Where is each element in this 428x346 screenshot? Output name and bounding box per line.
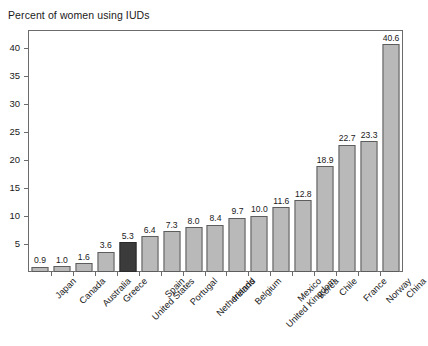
bar-value-label: 8.4 [210, 213, 222, 223]
bar [185, 227, 202, 272]
y-axis-tick-label: 15 [9, 182, 20, 193]
bar [273, 207, 290, 272]
bar [361, 141, 378, 272]
x-axis-category-label: Japan [53, 276, 78, 301]
bar-value-label: 11.6 [273, 196, 289, 206]
y-axis-tick-label: 25 [9, 126, 20, 137]
bar-group: 40.6 [380, 31, 402, 272]
bar [295, 200, 312, 272]
bar-group: 1.6 [73, 31, 95, 272]
bar-group: 1.0 [51, 31, 73, 272]
bar-group: 0.9 [29, 31, 51, 272]
y-axis-tick-label: 20 [9, 154, 20, 165]
bar-value-label: 12.8 [295, 189, 312, 199]
bar-group: 9.7 [226, 31, 248, 272]
bars-layer: 0.91.01.63.65.36.47.38.08.49.710.011.612… [29, 31, 402, 272]
bar [97, 252, 114, 272]
bar-group: 5.3 [117, 31, 139, 272]
bar-value-label: 3.6 [100, 240, 112, 250]
bar-value-label: 18.9 [317, 155, 334, 165]
bar-value-label: 9.7 [231, 206, 243, 216]
y-axis-tick-label: 10 [9, 210, 20, 221]
bar-group: 18.9 [314, 31, 336, 272]
bar [119, 242, 136, 272]
x-axis-labels: JapanCanadaAustraliaGreeceUnited StatesS… [29, 276, 425, 346]
bar [251, 216, 268, 272]
bar-group: 10.0 [248, 31, 270, 272]
y-axis-tick-label: 40 [9, 42, 20, 53]
bar [207, 225, 224, 272]
bar-group: 22.7 [336, 31, 358, 272]
bar-group: 8.0 [183, 31, 205, 272]
bar [141, 236, 158, 272]
y-axis-tick-label: 35 [9, 70, 20, 81]
bar [229, 218, 246, 272]
y-axis: 510152025303540 [0, 30, 28, 273]
bar [317, 166, 334, 272]
bar-value-label: 22.7 [339, 133, 356, 143]
bar-value-label: 7.3 [166, 220, 178, 230]
bar-group: 12.8 [292, 31, 314, 272]
y-axis-tick-label: 5 [15, 238, 20, 249]
bar-value-label: 10.0 [251, 204, 268, 214]
bar-value-label: 6.4 [144, 225, 156, 235]
bar-group: 3.6 [95, 31, 117, 272]
bar-group: 23.3 [358, 31, 380, 272]
bar-group: 7.3 [161, 31, 183, 272]
bar [383, 44, 400, 272]
bar-value-label: 40.6 [383, 33, 400, 43]
bar [163, 231, 180, 272]
bar-value-label: 8.0 [188, 216, 200, 226]
bar-value-label: 1.6 [78, 252, 90, 262]
bar-value-label: 1.0 [56, 255, 68, 265]
bar [75, 263, 92, 272]
x-axis-category-label: Belgium [253, 276, 284, 307]
bar-value-label: 5.3 [122, 231, 134, 241]
bar-group: 8.4 [205, 31, 227, 272]
bar [339, 145, 356, 272]
bar-group: 11.6 [270, 31, 292, 272]
bar-group: 6.4 [139, 31, 161, 272]
bar-value-label: 23.3 [361, 130, 378, 140]
x-axis-category-label: Chile [337, 276, 359, 298]
y-axis-tick-label: 30 [9, 98, 20, 109]
chart-title: Percent of women using IUDs [8, 9, 150, 21]
bar-value-label: 0.9 [34, 255, 46, 265]
